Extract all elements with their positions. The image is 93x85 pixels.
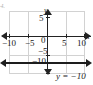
x-tick-label-zero: 0 [41,35,46,45]
line-arrow-right-icon [86,59,92,67]
line-y-equals-negative-ten [4,62,89,64]
y-axis [47,11,48,74]
equation-annotation: y = −10 [56,71,86,81]
y-tick-label-neg10: −10 [32,56,46,66]
y-axis-label: y [44,6,48,15]
coordinate-plane-figure: 4. −10 −5 0 5 10 5 −5 −10 x y y = −10 [0,0,93,85]
x-tick-label-neg10: −10 [2,38,16,48]
y-tick [46,17,50,18]
y-tick-label-5: 5 [39,13,44,23]
x-tick-label-neg5: −5 [25,38,35,48]
line-arrow-left-icon [0,59,6,67]
x-tick-label-10: 10 [77,38,86,48]
problem-number-label: 4. [0,2,5,10]
x-axis-label: x [86,32,90,41]
x-tick-label-5: 5 [62,38,67,48]
y-tick [46,73,50,74]
y-tick-label-neg5: −5 [38,46,48,56]
y-axis-arrow-down-icon [44,69,52,75]
